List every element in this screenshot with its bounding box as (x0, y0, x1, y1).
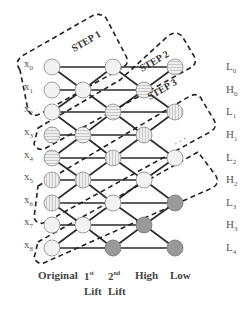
node-high-7 (136, 217, 152, 233)
step-3-label: STEP 3 (146, 76, 179, 102)
output-label-h2: H2 (226, 174, 237, 188)
output-label-h3: H3 (226, 219, 237, 233)
input-label-x7: x7 (24, 216, 33, 230)
column-label-3: High (135, 270, 158, 281)
input-label-x0: x0 (24, 58, 33, 72)
node-lift2-2 (105, 104, 121, 120)
lifting-lattice-diagram: STEP 1 STEP 2 STEP 3 · · · (0, 0, 249, 310)
input-label-x3: x3 (24, 126, 33, 140)
node-original-5 (44, 172, 60, 188)
output-label-l3: L3 (226, 197, 236, 211)
node-original-6 (44, 195, 60, 211)
ellipsis-mark: · · · (172, 133, 189, 148)
node-original-4 (44, 150, 60, 166)
node-low-8 (167, 240, 183, 256)
node-lift1-3 (75, 127, 91, 143)
node-lift2-8 (105, 240, 121, 256)
node-lift2-4 (105, 150, 121, 166)
step-2-label: STEP 2 (138, 48, 171, 74)
node-low-2 (167, 104, 183, 120)
input-label-x2: x2 (24, 103, 33, 117)
input-label-x1: x1 (24, 81, 33, 95)
output-label-l1: L1 (226, 106, 236, 120)
output-label-l0: L0 (226, 61, 236, 75)
node-original-3 (44, 127, 60, 143)
column-label-1: 1stLift (84, 270, 102, 297)
node-original-2 (44, 104, 60, 120)
node-low-6 (167, 195, 183, 211)
node-lift1-7 (75, 217, 91, 233)
input-label-x5: x5 (24, 171, 33, 185)
step-1-label: STEP 1 (70, 28, 103, 54)
column-label-2: 2ndLift (108, 270, 126, 297)
node-lift1-5 (75, 172, 91, 188)
output-label-l4: L4 (226, 242, 236, 256)
step-region-tail (34, 152, 217, 263)
node-high-5 (136, 172, 152, 188)
output-label-l2: L2 (226, 152, 236, 166)
node-lift1-1 (75, 82, 91, 98)
node-lift2-0 (105, 59, 121, 75)
node-low-4 (167, 150, 183, 166)
node-lift2-6 (105, 195, 121, 211)
input-label-x4: x4 (24, 149, 33, 163)
output-label-h0: H0 (226, 84, 237, 98)
node-original-8 (44, 240, 60, 256)
node-low-0 (167, 59, 183, 75)
input-label-x6: x6 (24, 194, 33, 208)
output-label-h1: H1 (226, 129, 237, 143)
input-label-x8: x8 (24, 239, 33, 253)
node-original-1 (44, 82, 60, 98)
column-label-0: Original (38, 270, 78, 281)
column-label-4: Low (170, 270, 191, 281)
node-original-7 (44, 217, 60, 233)
node-high-3 (136, 127, 152, 143)
node-original-0 (44, 59, 60, 75)
